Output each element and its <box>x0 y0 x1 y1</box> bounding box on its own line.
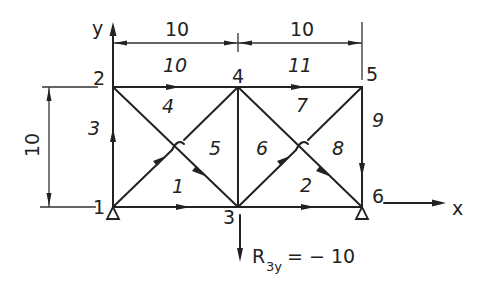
x-axis: x <box>384 197 463 219</box>
reaction-r3y: R 3y = − 10 <box>237 215 355 274</box>
arrow-member-3-icon <box>110 128 116 142</box>
node-label-2: 2 <box>93 67 105 89</box>
y-axis-arrowhead-icon <box>110 22 117 36</box>
member-label-9: 9 <box>372 109 384 131</box>
member-label-5: 5 <box>209 137 221 159</box>
member-label-11: 11 <box>288 54 312 76</box>
supports <box>107 207 368 219</box>
pin-support-node-6-icon <box>356 207 368 219</box>
truss-diagram: y x 10 10 10 <box>0 0 480 298</box>
member-label-8: 8 <box>332 137 344 159</box>
arrow-member-4-icon <box>153 156 166 166</box>
arrow-member-1-icon <box>176 204 190 210</box>
node-label-4: 4 <box>232 65 244 87</box>
member-label-10: 10 <box>163 54 187 76</box>
pin-support-node-1-icon <box>107 207 119 219</box>
arrow-member-7-icon <box>277 156 290 166</box>
member-label-7: 7 <box>296 94 308 116</box>
truss-members <box>113 87 362 207</box>
node-label-6: 6 <box>372 185 384 207</box>
arrow-member-5-icon <box>192 166 205 176</box>
y-axis-label: y <box>92 17 103 39</box>
reaction-subscript: 3y <box>266 259 282 274</box>
arrow-member-11-icon <box>291 84 305 90</box>
reaction-value: = − 10 <box>287 245 355 267</box>
member-label-2: 2 <box>300 174 312 196</box>
member-7-upper <box>308 87 362 140</box>
arrow-member-10-icon <box>166 84 180 90</box>
reaction-symbol: R <box>252 245 265 267</box>
member-label-1: 1 <box>172 175 184 197</box>
dimension-top-right: 10 <box>290 18 314 40</box>
arrow-member-9-icon <box>359 163 365 177</box>
x-axis-arrowhead-icon <box>432 200 446 207</box>
dimension-top-left: 10 <box>165 18 189 40</box>
node-label-1: 1 <box>93 196 105 218</box>
dimension-left-height: 10 <box>21 133 43 157</box>
reaction-arrow-down-icon <box>237 248 243 262</box>
member-label-3: 3 <box>88 117 100 139</box>
member-label-6: 6 <box>256 137 268 159</box>
member-label-4: 4 <box>162 95 174 117</box>
node-label-3: 3 <box>223 206 235 228</box>
arrow-member-2-icon <box>301 204 315 210</box>
x-axis-label: x <box>452 197 463 219</box>
member-4-upper <box>184 87 238 140</box>
left-dimension: 10 <box>21 87 98 207</box>
node-label-5: 5 <box>366 63 378 85</box>
